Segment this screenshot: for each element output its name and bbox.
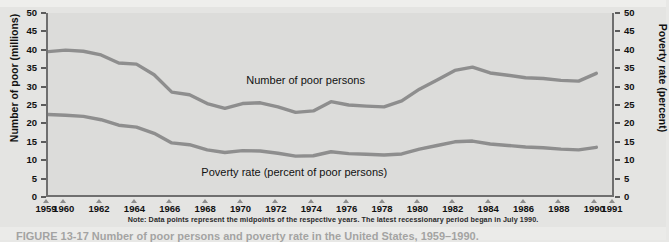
x-tick-label: 1988	[542, 204, 576, 214]
y-tick-label: 10	[15, 155, 37, 164]
y-tick-mark	[41, 12, 46, 14]
x-tick-label: 1970	[224, 204, 258, 214]
y2-tick-label: 10	[624, 155, 646, 164]
y2-tick-mark	[615, 104, 620, 106]
top-margin-strip	[0, 0, 666, 7]
y2-tick-label: 25	[624, 100, 646, 109]
y2-tick-mark	[615, 141, 620, 143]
y2-tick-label: 40	[624, 45, 646, 54]
y2-tick-mark	[615, 196, 620, 198]
y2-tick-label: 20	[624, 118, 646, 127]
right-axis-line	[612, 13, 614, 197]
x-tick-label: 1986	[507, 204, 541, 214]
x-tick-label: 1964	[117, 204, 151, 214]
x-tick-label: 1980	[400, 204, 434, 214]
y-tick-mark	[41, 30, 46, 32]
y-tick-mark	[41, 196, 46, 198]
series-label-poverty-rate: Poverty rate (percent of poor persons)	[201, 166, 387, 178]
y2-tick-mark	[615, 159, 620, 161]
y-tick-mark	[41, 122, 46, 124]
y-tick-mark	[41, 178, 46, 180]
x-tick-label: 1960	[47, 204, 81, 214]
y2-tick-label: 5	[624, 174, 646, 183]
y2-tick-label: 30	[624, 82, 646, 91]
y2-tick-mark	[615, 49, 620, 51]
y-tick-mark	[41, 86, 46, 88]
x-tick-label: 1966	[153, 204, 187, 214]
y2-tick-mark	[615, 30, 620, 32]
y2-tick-label: 15	[624, 137, 646, 146]
y2-tick-mark	[615, 122, 620, 124]
x-tick-label: 1984	[471, 204, 505, 214]
series-label-number-of-poor: Number of poor persons	[246, 74, 365, 86]
x-tick-label: 1991	[595, 204, 629, 214]
x-tick-label: 1974	[294, 204, 328, 214]
y2-tick-label: 50	[624, 8, 646, 17]
figure-note: Note: Data points represent the midpoint…	[0, 215, 666, 224]
y-tick-label: 5	[15, 174, 37, 183]
y2-tick-mark	[615, 12, 620, 14]
x-tick-label: 1972	[259, 204, 293, 214]
y-tick-mark	[41, 67, 46, 69]
x-tick-label: 1976	[330, 204, 364, 214]
y-tick-mark	[41, 49, 46, 51]
y-tick-mark	[41, 141, 46, 143]
x-tick-label: 1962	[82, 204, 116, 214]
y-tick-label: 0	[15, 192, 37, 201]
y-tick-mark	[41, 159, 46, 161]
y2-tick-mark	[615, 67, 620, 69]
figure-caption: FIGURE 13-17 Number of poor persons and …	[16, 230, 479, 242]
right-axis-title: Poverty rate (percent)	[657, 3, 669, 153]
y-tick-mark	[41, 104, 46, 106]
x-tick-label: 1968	[188, 204, 222, 214]
y2-tick-label: 45	[624, 26, 646, 35]
y2-tick-label: 0	[624, 192, 646, 201]
x-tick-label: 1982	[436, 204, 470, 214]
y2-tick-label: 35	[624, 63, 646, 72]
series-line-poverty-rate	[48, 115, 596, 157]
left-axis-title: Number of poor (millions)	[8, 3, 20, 153]
x-tick-label: 1978	[365, 204, 399, 214]
y2-tick-mark	[615, 86, 620, 88]
y2-tick-mark	[615, 178, 620, 180]
